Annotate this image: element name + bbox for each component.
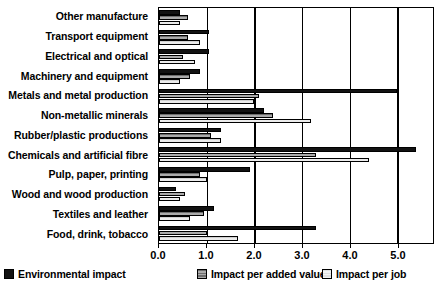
bar [159, 10, 180, 15]
bar [159, 94, 259, 99]
category-label: Textiles and leather [0, 205, 153, 225]
bar-group [159, 184, 433, 204]
bar [159, 113, 273, 118]
bar [159, 187, 176, 192]
bar [159, 79, 180, 84]
category-label: Electrical and optical [0, 47, 153, 67]
category-label: Rubber/plastic productions [0, 126, 153, 146]
bar-group [159, 223, 433, 243]
category-label: Transport equipment [0, 27, 153, 47]
x-tick-label: 5.0 [390, 249, 405, 261]
plot-area [158, 7, 434, 244]
category-label: Pulp, paper, printing [0, 165, 153, 185]
tick-mark [206, 244, 207, 248]
category-axis-labels: Other manufactureTransport equipmentElec… [0, 7, 153, 244]
bar-group [159, 8, 433, 28]
legend-label: Environmental impact [18, 268, 126, 280]
bar [159, 133, 211, 138]
tick-mark [302, 244, 303, 248]
bar [159, 89, 397, 94]
bar [159, 74, 190, 79]
legend-item: Environmental impact [4, 268, 126, 280]
chart-legend: Environmental impactImpact per added val… [4, 268, 438, 288]
legend-label: Impact per job [336, 268, 406, 280]
legend-swatch-icon [197, 269, 207, 279]
bar [159, 21, 180, 26]
category-label: Other manufacture [0, 7, 153, 27]
bar-group [159, 86, 433, 106]
bar [159, 236, 238, 241]
bar [159, 197, 180, 202]
category-label: Machinery and equipment [0, 66, 153, 86]
legend-swatch-icon [4, 269, 14, 279]
tick-mark [254, 244, 255, 248]
bar [159, 40, 200, 45]
legend-item: Impact per added value [197, 268, 326, 280]
legend-label: Impact per added value [211, 268, 326, 280]
bar-group [159, 28, 433, 48]
bar [159, 55, 183, 60]
x-tick-label: 0.0 [150, 249, 165, 261]
bar [159, 119, 311, 124]
category-label: Metals and metal production [0, 86, 153, 106]
category-label: Non-metallic minerals [0, 106, 153, 126]
bar [159, 206, 214, 211]
bar [159, 216, 190, 221]
bar [159, 138, 221, 143]
bar-group [159, 204, 433, 224]
bar-group [159, 145, 433, 165]
x-tick-label: 3.0 [294, 249, 309, 261]
bar [159, 35, 188, 40]
bar [159, 167, 250, 172]
bar [159, 211, 204, 216]
bar-group [159, 106, 433, 126]
bar [159, 49, 209, 54]
bar [159, 172, 200, 177]
bar [159, 99, 254, 104]
bar [159, 69, 200, 74]
bar-group [159, 47, 433, 67]
bar-rows [159, 8, 433, 243]
bar [159, 158, 369, 163]
legend-item: Impact per job [322, 268, 406, 280]
bar [159, 231, 207, 236]
bar [159, 147, 416, 152]
category-label: Wood and wood production [0, 185, 153, 205]
x-axis-tick-labels: 0.01.02.03.04.05.0 [158, 249, 434, 263]
bar-group [159, 67, 433, 87]
x-tick-label: 4.0 [342, 249, 357, 261]
category-label: Chemicals and artificial fibre [0, 145, 153, 165]
x-tick-label: 2.0 [246, 249, 261, 261]
x-tick-label: 1.0 [198, 249, 213, 261]
category-label: Food, drink, tobacco [0, 224, 153, 244]
bar [159, 30, 209, 35]
tick-mark [398, 244, 399, 248]
bar [159, 226, 316, 231]
bar-group [159, 165, 433, 185]
bar [159, 153, 316, 158]
tick-mark [350, 244, 351, 248]
legend-swatch-icon [322, 269, 332, 279]
tick-mark [158, 244, 159, 248]
horizontal-bar-chart: Other manufactureTransport equipmentElec… [0, 0, 442, 294]
bar [159, 60, 195, 65]
bar-group [159, 125, 433, 145]
bar [159, 15, 188, 20]
bar [159, 177, 207, 182]
bar [159, 128, 221, 133]
bar [159, 192, 185, 197]
bar [159, 108, 264, 113]
